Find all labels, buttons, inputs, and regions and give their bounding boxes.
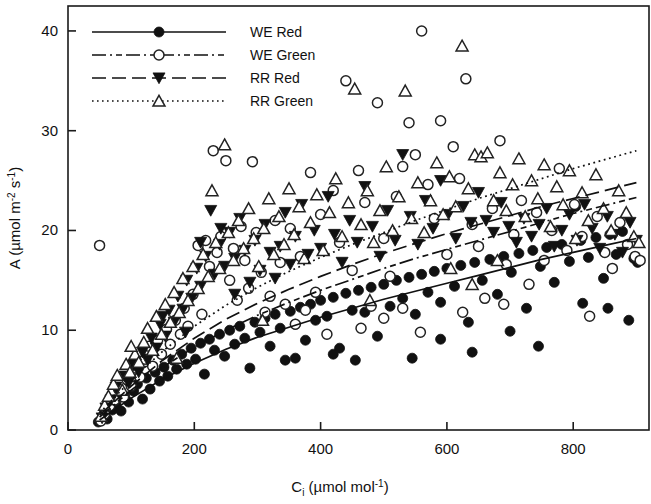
y-tick-label: 20	[41, 221, 58, 238]
data-point	[624, 315, 634, 325]
data-point	[590, 169, 602, 180]
data-point	[322, 191, 334, 202]
data-point	[436, 297, 446, 307]
data-point	[341, 288, 351, 298]
x-axis-label: Ci (µmol mol-1)	[291, 478, 388, 498]
data-point	[350, 355, 360, 365]
data-point	[283, 183, 295, 194]
data-point	[418, 227, 430, 238]
data-point	[228, 243, 238, 253]
data-point	[467, 347, 477, 357]
data-point	[372, 98, 382, 108]
data-point	[514, 248, 524, 258]
data-point	[499, 299, 509, 309]
x-tick-label: 200	[182, 440, 207, 457]
data-point	[563, 165, 575, 176]
x-tick-label: 0	[64, 440, 72, 457]
data-point	[219, 139, 231, 150]
data-point	[456, 40, 468, 51]
data-point	[280, 299, 290, 309]
data-point	[448, 142, 458, 152]
data-point	[389, 235, 401, 246]
legend-label-0: WE Red	[250, 24, 302, 40]
data-point	[494, 167, 506, 178]
data-point	[473, 241, 483, 251]
data-point	[300, 305, 310, 315]
data-point	[564, 256, 574, 266]
data-point	[461, 74, 471, 84]
data-point	[510, 237, 522, 248]
data-point	[280, 355, 290, 365]
data-point	[305, 217, 317, 228]
data-point	[431, 157, 443, 168]
data-point	[538, 159, 550, 170]
data-point	[354, 285, 364, 295]
data-point	[505, 326, 515, 336]
data-point	[407, 353, 417, 363]
data-point	[322, 329, 332, 339]
legend: WE RedWE GreenRR RedRR Green	[92, 24, 315, 109]
data-point	[270, 309, 280, 319]
data-point	[410, 309, 420, 319]
data-point	[404, 272, 414, 282]
figure-canvas: 0200400600800010203040WE RedWE GreenRR R…	[0, 0, 651, 504]
data-point	[551, 181, 563, 192]
data-point	[528, 245, 538, 255]
data-point	[495, 136, 505, 146]
data-point	[456, 260, 466, 270]
data-point	[583, 252, 593, 262]
data-point	[404, 118, 414, 128]
data-point	[349, 83, 361, 94]
data-point	[477, 275, 487, 285]
data-point	[263, 193, 275, 204]
data-point	[436, 116, 446, 126]
data-point	[366, 221, 378, 232]
data-point	[243, 203, 255, 214]
y-tick-label: 10	[41, 321, 58, 338]
y-axis-label: A (µmol m-2 s-1)	[6, 167, 23, 269]
data-point	[526, 231, 538, 242]
data-point	[206, 185, 218, 196]
data-point	[620, 207, 632, 218]
data-point	[220, 351, 230, 361]
y-tick-label: 40	[41, 22, 58, 39]
data-point	[341, 76, 351, 86]
data-point	[450, 233, 462, 244]
data-point	[199, 369, 209, 379]
data-point	[578, 298, 588, 308]
data-point	[521, 303, 531, 313]
data-point	[417, 269, 427, 279]
data-point	[613, 185, 625, 196]
legend-label-1: WE Green	[250, 47, 315, 63]
data-point	[330, 173, 342, 184]
data-point	[300, 335, 310, 345]
data-point	[197, 309, 207, 319]
data-point	[399, 85, 411, 96]
data-point	[513, 153, 525, 164]
data-point	[208, 146, 218, 156]
legend-label-3: RR Green	[250, 93, 313, 109]
data-point	[366, 282, 376, 292]
data-point	[355, 219, 367, 230]
data-point	[470, 257, 480, 267]
data-points-layer	[93, 26, 645, 427]
data-point	[221, 156, 231, 166]
data-point	[549, 277, 559, 287]
x-tick-label: 800	[561, 440, 586, 457]
data-point	[532, 193, 544, 204]
data-point	[615, 217, 625, 227]
y-tick-label: 30	[41, 122, 58, 139]
data-point	[466, 279, 478, 290]
data-point	[481, 147, 493, 158]
scatter-plot-svg: 0200400600800010203040WE RedWE GreenRR R…	[0, 0, 651, 504]
data-point	[354, 166, 364, 176]
legend-label-2: RR Red	[250, 70, 300, 86]
data-point	[351, 237, 363, 248]
legend-marker-1	[154, 50, 164, 60]
data-point	[427, 223, 439, 234]
data-point	[360, 198, 370, 208]
data-point	[398, 303, 408, 313]
data-point	[415, 327, 425, 337]
data-point	[385, 301, 395, 311]
x-tick-label: 400	[308, 440, 333, 457]
